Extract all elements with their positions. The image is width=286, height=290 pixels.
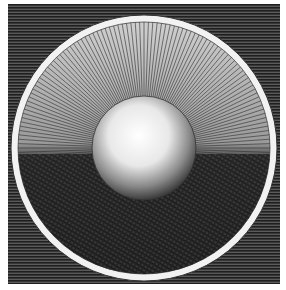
engraving-illustration: [8, 4, 280, 284]
luminous-sphere: [92, 96, 196, 200]
engraving-frame: [8, 4, 280, 284]
